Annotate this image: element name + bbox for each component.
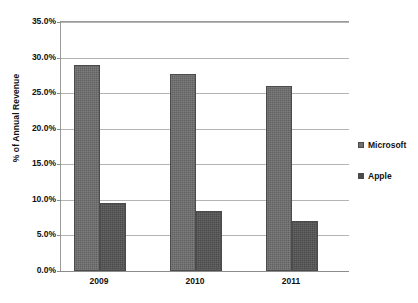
chart-legend: MicrosoftApple	[358, 138, 418, 200]
legend-label: Microsoft	[368, 140, 406, 150]
bar-microsoft-2010	[170, 74, 196, 271]
x-axis-tick-label: 2011	[282, 276, 300, 286]
y-axis-tickmark	[57, 22, 61, 23]
x-axis-tick-label: 2010	[186, 276, 205, 286]
bar-group	[266, 22, 318, 271]
plot-area	[60, 21, 349, 272]
y-axis-tickmark	[57, 235, 61, 236]
x-axis-tick-label: 2009	[90, 276, 109, 286]
bar-group	[170, 22, 222, 271]
bar-microsoft-2011	[266, 86, 292, 271]
bar-microsoft-2009	[74, 65, 100, 271]
bar-group	[74, 22, 126, 271]
bar-chart: % of Annual Revenue 0.0%5.0%10.0%15.0%20…	[0, 0, 418, 303]
x-axis-tick-labels: 200920102011	[60, 276, 348, 292]
bar-apple-2009	[100, 203, 126, 271]
y-axis-tickmark	[57, 200, 61, 201]
legend-item-microsoft[interactable]: Microsoft	[358, 138, 418, 152]
y-axis-tickmark	[57, 58, 61, 59]
y-axis-tick-label: 0.0%	[18, 265, 56, 275]
y-axis-tick-label: 5.0%	[18, 229, 56, 239]
y-axis-tick-label: 35.0%	[18, 16, 56, 26]
legend-swatch-icon	[358, 142, 364, 148]
y-axis-tick-label: 20.0%	[18, 123, 56, 133]
x-axis-line	[61, 271, 349, 272]
y-axis-tick-label: 15.0%	[18, 158, 56, 168]
y-axis-tick-label: 10.0%	[18, 194, 56, 204]
legend-label: Apple	[368, 171, 392, 181]
y-axis-tick-label: 30.0%	[18, 52, 56, 62]
legend-item-apple[interactable]: Apple	[358, 169, 418, 183]
y-axis-tickmark	[57, 129, 61, 130]
bar-apple-2011	[292, 221, 318, 271]
y-axis-tickmark	[57, 93, 61, 94]
y-axis-tickmark	[57, 164, 61, 165]
legend-swatch-icon	[358, 173, 364, 179]
y-axis-tickmark	[57, 271, 61, 272]
y-axis-tick-labels: 0.0%5.0%10.0%15.0%20.0%25.0%30.0%35.0%	[18, 0, 56, 303]
y-axis-tick-label: 25.0%	[18, 87, 56, 97]
bar-apple-2010	[196, 211, 222, 271]
